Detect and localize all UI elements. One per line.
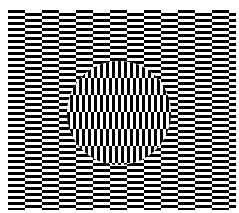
ouchi-illusion-figure: Ouchi illusion (0, 0, 239, 213)
illusion-canvas (0, 0, 239, 213)
